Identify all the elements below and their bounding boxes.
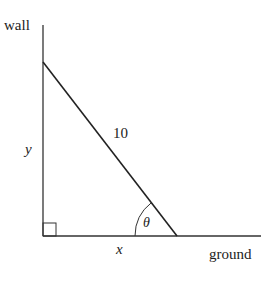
wall-label: wall xyxy=(4,17,30,33)
hypotenuse-label: 10 xyxy=(113,125,128,141)
height-label: y xyxy=(23,141,32,157)
right-angle-marker xyxy=(43,223,56,236)
ladder-line xyxy=(43,62,177,236)
ground-label: ground xyxy=(209,246,252,262)
base-label: x xyxy=(115,241,123,257)
ladder-diagram: wall 10 y θ x ground xyxy=(0,0,274,284)
angle-label: θ xyxy=(143,215,150,230)
